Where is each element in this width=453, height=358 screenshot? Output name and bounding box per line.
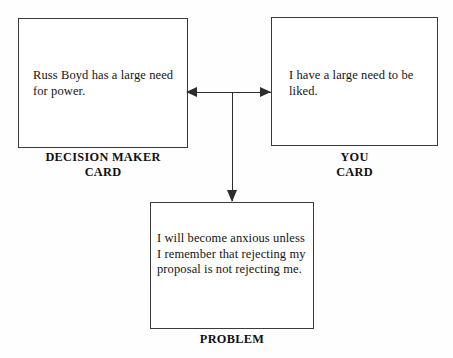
you-card-text: I have a large need to be liked. xyxy=(289,68,434,99)
diagram-canvas: Russ Boyd has a large need for power. DE… xyxy=(0,0,453,358)
connector-vertical-line xyxy=(232,92,233,201)
arrow-down-icon xyxy=(227,190,237,202)
problem-caption: PROBLEM xyxy=(150,332,314,347)
arrow-right-icon xyxy=(260,87,271,97)
problem-text: I will become anxious unless I remember … xyxy=(157,231,309,278)
arrow-left-icon xyxy=(186,87,197,97)
connector-horizontal-line xyxy=(189,92,271,93)
decision-maker-card-caption: DECISION MAKER CARD xyxy=(18,150,188,180)
you-card-caption: YOU CARD xyxy=(271,150,438,180)
decision-maker-card-text: Russ Boyd has a large need for power. xyxy=(33,68,183,99)
